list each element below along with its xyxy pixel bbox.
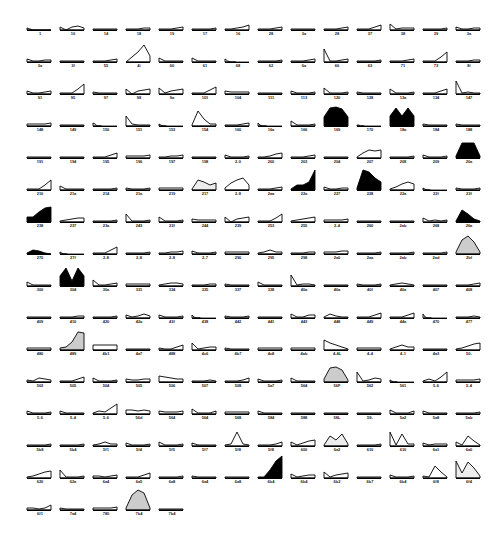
glyph-label: 22a: [390, 192, 416, 196]
sparkline-glyph: 5-4: [60, 392, 86, 422]
glyph-label: 6a2: [324, 448, 350, 452]
area-glyph-icon: [27, 72, 53, 96]
sparkline-glyph: 169: [324, 104, 350, 134]
area-glyph-icon: [159, 72, 185, 96]
glyph-label: 4i: [126, 64, 152, 68]
glyph-label: 489: [60, 352, 86, 356]
sparkline-glyph: 3a: [27, 40, 53, 70]
area-glyph-icon: [27, 488, 53, 512]
glyph-label: 128: [357, 96, 383, 100]
area-glyph-icon: [126, 424, 152, 448]
sparkline-glyph: 2-4: [324, 200, 350, 230]
sparkline-glyph: 7a4: [60, 488, 86, 518]
sparkline-glyph: 410: [60, 296, 86, 326]
sparkline-glyph: 441: [258, 296, 284, 326]
glyph-label: 6b4: [258, 480, 284, 484]
glyph-label: 2a0: [324, 256, 350, 260]
sparkline-glyph: 238: [27, 200, 53, 230]
sparkline-glyph: 128: [357, 72, 383, 102]
sparkline-glyph: 4c8: [258, 328, 284, 358]
glyph-label: 23f: [456, 192, 482, 196]
area-glyph-icon: [258, 168, 284, 192]
area-glyph-icon: [159, 136, 185, 160]
area-glyph-icon: [159, 424, 185, 448]
area-glyph-icon: [159, 360, 185, 384]
area-glyph-icon: [324, 168, 350, 192]
area-glyph-icon: [423, 456, 449, 480]
sparkline-glyph: 505: [60, 360, 86, 390]
sparkline-glyph: 504: [93, 360, 119, 390]
glyph-label: 2-7: [192, 256, 218, 260]
sparkline-glyph: 5b4: [60, 424, 86, 454]
glyph-label: 780: [93, 512, 119, 516]
area-glyph-icon: [357, 232, 383, 256]
sparkline-glyph: 5ab: [456, 392, 482, 422]
sparkline-glyph: 209: [423, 136, 449, 166]
area-glyph-icon: [126, 264, 152, 288]
glyph-label: 5a7: [258, 384, 284, 388]
sparkline-glyph: 449: [357, 296, 383, 326]
glyph-label: 2aa: [258, 192, 284, 196]
sparkline-glyph: 610: [357, 424, 383, 454]
area-glyph-icon: [357, 40, 383, 64]
glyph-label: 8i: [456, 64, 482, 68]
glyph-label: 219: [159, 192, 185, 196]
sparkline-glyph: 5a7: [258, 360, 284, 390]
area-glyph-icon: [93, 328, 119, 352]
sparkline-glyph: 4i: [126, 40, 152, 70]
sparkline-glyph: 564: [192, 392, 218, 422]
area-glyph-icon: [390, 232, 416, 256]
glyph-label: 17: [192, 32, 218, 36]
glyph-label: 228: [357, 192, 383, 196]
sparkline-glyph: 4-4L: [324, 328, 350, 358]
sparkline-glyph: 40a: [390, 264, 416, 294]
sparkline-glyph: 2aa: [258, 168, 284, 198]
area-glyph-icon: [324, 264, 350, 288]
sparkline-glyph: 210: [27, 168, 53, 198]
area-glyph-icon: [390, 296, 416, 320]
glyph-label: 39: [423, 32, 449, 36]
sparkline-glyph: 50-: [456, 328, 482, 358]
sparkline-glyph: 6a0: [456, 424, 482, 454]
sparkline-glyph: 5f5: [159, 424, 185, 454]
area-glyph-icon: [456, 168, 482, 192]
sparkline-glyph: 338: [258, 264, 284, 294]
glyph-label: 98: [126, 96, 152, 100]
glyph-label: 197: [159, 160, 185, 164]
area-glyph-icon: [258, 328, 284, 352]
area-glyph-icon: [27, 296, 53, 320]
glyph-label: 4b7: [225, 352, 251, 356]
area-glyph-icon: [258, 104, 284, 128]
glyph-label: 6b4: [390, 480, 416, 484]
area-glyph-icon: [126, 168, 152, 192]
area-glyph-icon: [423, 40, 449, 64]
glyph-label: 134: [423, 96, 449, 100]
sparkline-glyph: 5-6: [93, 392, 119, 422]
glyph-label: 196: [126, 160, 152, 164]
area-glyph-icon: [60, 136, 86, 160]
sparkline-glyph: 228: [357, 168, 383, 198]
glyph-label: 169: [324, 128, 350, 132]
sparkline-glyph: 2-8: [126, 232, 152, 262]
area-glyph-icon: [390, 104, 416, 128]
glyph-label: 568: [225, 416, 251, 420]
sparkline-glyph: 44a: [390, 296, 416, 326]
area-glyph-icon: [192, 328, 218, 352]
glyph-label: 198: [192, 160, 218, 164]
area-glyph-icon: [291, 360, 317, 384]
glyph-label: 5-4: [60, 416, 86, 420]
area-glyph-icon: [126, 296, 152, 320]
area-glyph-icon: [126, 232, 152, 256]
sparkline-glyph: 214: [93, 168, 119, 198]
sparkline-glyph: 10: [60, 8, 86, 38]
glyph-label: 508: [225, 384, 251, 388]
glyph-label: 23f: [159, 224, 185, 228]
area-glyph-icon: [291, 200, 317, 224]
sparkline-glyph: 506: [159, 360, 185, 390]
sparkline-glyph: 23f: [159, 200, 185, 230]
area-glyph-icon: [93, 168, 119, 192]
area-glyph-icon: [192, 8, 218, 32]
glyph-label: 237: [60, 224, 86, 228]
area-glyph-icon: [324, 424, 350, 448]
glyph-label: 564: [291, 384, 317, 388]
